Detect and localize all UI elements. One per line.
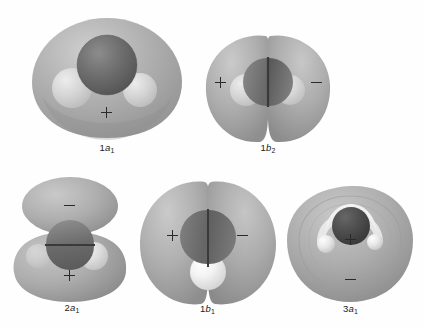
minus-sign-upper-lobe xyxy=(64,200,75,211)
caption-1b2: 1b2 xyxy=(198,142,338,154)
orbital-render-2a1 xyxy=(12,172,132,322)
orbital-render-1a1 xyxy=(22,10,192,160)
orbital-panel-2a1: 2a1 xyxy=(12,172,132,322)
plus-sign-lower-lobe xyxy=(64,270,75,281)
caption-3a1: 3a1 xyxy=(283,303,418,315)
orbital-panel-3a1: 3a1 xyxy=(283,178,418,323)
orbital-panel-1a1: 1a1 xyxy=(22,10,192,160)
minus-sign-lower-lobe xyxy=(345,274,356,285)
orbital-render-1b1 xyxy=(135,172,280,322)
plus-sign-inner-core xyxy=(345,234,356,245)
caption-1b1: 1b1 xyxy=(135,303,280,315)
caption-subscript: 1 xyxy=(211,308,215,315)
plus-sign-lower-center xyxy=(101,107,112,118)
caption-subscript: 1 xyxy=(110,147,114,154)
caption-subscript: 1 xyxy=(75,307,79,314)
caption-2a1: 2a1 xyxy=(12,302,132,314)
hydrogen-sphere-left xyxy=(317,235,335,253)
minus-sign-right-lobe xyxy=(237,230,248,241)
plus-sign-left-lobe xyxy=(167,230,178,241)
plus-sign-left-lobe xyxy=(215,77,226,88)
minus-sign-right-lobe xyxy=(311,77,322,88)
caption-1a1: 1a1 xyxy=(22,142,192,154)
hydrogen-sphere-right xyxy=(367,234,383,250)
orbital-render-1b2 xyxy=(198,22,338,160)
caption-subscript: 2 xyxy=(271,147,275,154)
caption-subscript: 1 xyxy=(354,308,358,315)
orbital-panel-1b1: 1b1 xyxy=(135,172,280,322)
orbital-panel-1b2: 1b2 xyxy=(198,22,338,160)
orbital-render-3a1 xyxy=(283,178,418,323)
molecular-orbital-figure: 1a1 xyxy=(0,0,424,329)
